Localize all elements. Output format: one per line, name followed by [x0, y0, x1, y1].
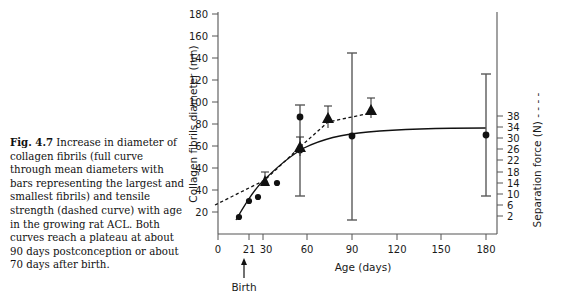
data-point-circle	[483, 132, 490, 139]
y-tick-label-180: 180	[189, 9, 208, 20]
x-axis-ticks	[218, 234, 486, 240]
data-point-circle	[255, 194, 261, 200]
axes-group	[218, 12, 497, 234]
series-collagen-diameter	[236, 53, 491, 220]
y-axis-left-title: Collagen fibrils diameter (nm)	[187, 45, 199, 202]
birth-arrow-head	[241, 258, 247, 265]
x-tick-label-0: 0	[215, 244, 221, 255]
y2-tick-label-22: 22	[507, 155, 520, 166]
birth-label: Birth	[231, 281, 256, 293]
y-axis-right-title: Separation force (N) - - - -	[531, 92, 543, 227]
x-tick-label-30: 30	[260, 244, 273, 255]
solid-curve-line	[236, 128, 486, 220]
series-separation-force	[215, 98, 377, 205]
y-axis-left-ticks	[212, 14, 218, 212]
data-point-triangle	[322, 112, 334, 123]
y2-tick-label-14: 14	[507, 178, 520, 189]
x-tick-label-180: 180	[476, 244, 495, 255]
y2-tick-label-10: 10	[507, 189, 520, 200]
chart-svg: 180 160 140 120 100 80 60 40 40 20 Colla…	[0, 0, 564, 298]
y2-tick-label-6: 6	[507, 200, 513, 211]
x-tick-label-60: 60	[301, 244, 314, 255]
birth-annotation: Birth	[231, 258, 256, 293]
y2-tick-label-30: 30	[507, 133, 520, 144]
y-axis-right-ticks	[497, 116, 503, 216]
data-point-triangle	[294, 141, 306, 152]
data-point-circle	[236, 214, 242, 220]
data-point-circle	[246, 198, 252, 204]
x-axis-tick-labels: 0 21 30 60 90 120 150 180	[215, 244, 496, 255]
y2-tick-label-34: 34	[507, 122, 520, 133]
dashed-curve-line	[215, 113, 371, 205]
data-point-circle	[349, 133, 356, 140]
x-tick-label-21: 21	[243, 244, 256, 255]
data-point-triangle	[365, 104, 377, 115]
y-axis-right-tick-labels: 38 34 30 26 22 18 14 10 6 2	[507, 111, 520, 222]
figure-plot-area: 180 160 140 120 100 80 60 40 40 20 Colla…	[0, 0, 564, 298]
y2-tick-label-18: 18	[507, 167, 520, 178]
data-point-circle	[297, 114, 304, 121]
x-tick-label-90: 90	[346, 244, 359, 255]
y2-tick-label-2: 2	[507, 211, 513, 222]
y2-tick-label-26: 26	[507, 144, 520, 155]
x-axis-title: Age (days)	[335, 261, 392, 273]
x-tick-label-120: 120	[387, 244, 406, 255]
y2-tick-label-38: 38	[507, 111, 520, 122]
y-tick-label-160: 160	[189, 31, 208, 42]
y-tick-label-20: 20	[195, 207, 208, 218]
x-tick-label-150: 150	[431, 244, 450, 255]
data-point-circle	[274, 180, 280, 186]
